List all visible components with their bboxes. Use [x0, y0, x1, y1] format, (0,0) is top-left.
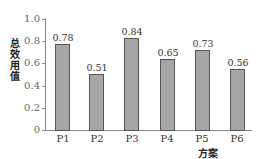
y-tick — [42, 41, 45, 42]
chart: 总效用值 0 0.2 0.4 0.6 0.8 1.0 0.78 0.51 0.8… — [0, 0, 256, 159]
bar-p2 — [89, 74, 104, 131]
bar-p6 — [230, 69, 245, 131]
bar-value-label: 0.84 — [117, 27, 147, 37]
y-tick-label: 0.2 — [10, 103, 40, 113]
y-tick — [42, 130, 45, 131]
bar-p5 — [195, 50, 210, 131]
bar-value-label: 0.65 — [153, 48, 183, 58]
x-axis-line — [45, 130, 252, 131]
y-tick-label: 0 — [10, 125, 40, 135]
y-tick-label: 0.4 — [10, 81, 40, 91]
y-tick — [42, 86, 45, 87]
y-tick-label: 0.8 — [10, 36, 40, 46]
x-tick-label: P4 — [152, 133, 182, 144]
x-tick-label: P6 — [222, 133, 252, 144]
x-tick-label: P2 — [82, 133, 112, 144]
x-tick-label: P5 — [187, 133, 217, 144]
y-tick-label: 0.6 — [10, 58, 40, 68]
bar-value-label: 0.56 — [223, 58, 253, 68]
bar-value-label: 0.51 — [82, 63, 112, 73]
x-tick-label: P3 — [117, 133, 147, 144]
y-tick-label: 1.0 — [10, 14, 40, 24]
y-tick — [42, 108, 45, 109]
bar-value-label: 0.73 — [188, 39, 218, 49]
x-tick-label: P1 — [48, 133, 78, 144]
bar-p4 — [160, 59, 175, 131]
y-tick — [42, 19, 45, 20]
bar-p3 — [124, 38, 139, 131]
bar-value-label: 0.78 — [48, 33, 78, 43]
y-tick — [42, 63, 45, 64]
x-axis-title: 方案 — [198, 145, 218, 159]
bar-p1 — [55, 44, 70, 131]
y-axis-line — [45, 18, 46, 131]
